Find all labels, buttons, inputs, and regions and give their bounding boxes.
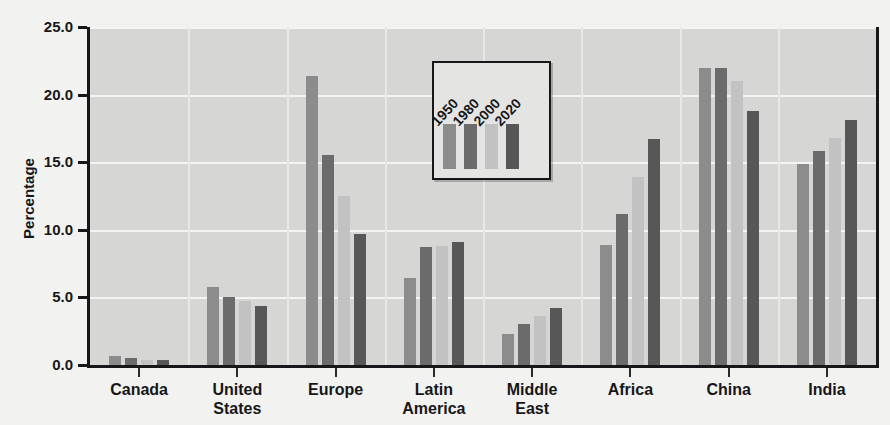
legend-swatch-2000 — [485, 124, 498, 169]
bar-chart: Percentage 0.05.010.015.020.025.0 Canada… — [0, 0, 890, 425]
bar — [648, 139, 660, 365]
bar — [125, 358, 137, 365]
bar — [436, 246, 448, 365]
bar-group — [680, 27, 778, 365]
x-axis-tick-label: Africa — [581, 380, 679, 399]
bar — [600, 245, 612, 365]
bar — [731, 81, 743, 365]
bar — [845, 120, 857, 365]
bar-group — [90, 27, 188, 365]
bar-group — [188, 27, 286, 365]
y-axis-tick-mark — [78, 229, 87, 232]
y-axis-tick-mark — [78, 94, 87, 97]
x-axis-tick-label: Canada — [90, 380, 188, 399]
x-axis-tick: UnitedStates — [188, 368, 286, 423]
bar — [797, 164, 809, 365]
x-axis-tick-label-line2: America — [385, 399, 483, 418]
bar — [616, 214, 628, 365]
legend-swatch-1980 — [464, 124, 477, 169]
bar — [699, 68, 711, 365]
bar-group — [778, 27, 876, 365]
bar — [404, 278, 416, 365]
x-axis-tick-mark — [236, 368, 238, 377]
y-axis-tick-label: 15.0 — [0, 153, 73, 170]
bar — [829, 138, 841, 365]
bar — [338, 196, 350, 365]
legend-labels: 1950198020002020 — [434, 63, 549, 125]
bar — [354, 234, 366, 365]
bar — [715, 68, 727, 365]
x-axis-tick-mark — [826, 368, 828, 377]
bar — [813, 151, 825, 365]
y-axis-tick-mark — [78, 161, 87, 164]
legend-swatches — [443, 124, 527, 169]
y-axis-tick-mark — [78, 296, 87, 299]
x-axis-tick-label: LatinAmerica — [385, 380, 483, 418]
x-axis-tick-label: MiddleEast — [483, 380, 581, 418]
x-axis-tick-labels: CanadaUnitedStatesEuropeLatinAmericaMidd… — [90, 368, 876, 423]
bar — [157, 360, 169, 365]
bar — [223, 297, 235, 365]
x-axis-tick-mark — [138, 368, 140, 377]
x-axis-tick: MiddleEast — [483, 368, 581, 423]
x-axis-tick-label-line2: States — [188, 399, 286, 418]
y-axis-tick-label: 20.0 — [0, 86, 73, 103]
y-axis-tick-label: 5.0 — [0, 288, 73, 305]
legend: 1950198020002020 — [432, 61, 551, 180]
bar — [306, 76, 318, 365]
x-axis-tick: LatinAmerica — [385, 368, 483, 423]
x-axis-tick: China — [680, 368, 778, 423]
y-axis-tick-label: 25.0 — [0, 18, 73, 35]
x-axis-tick-label: India — [778, 380, 876, 399]
x-axis-tick-label: China — [680, 380, 778, 399]
x-axis-tick-mark — [728, 368, 730, 377]
bar — [255, 306, 267, 365]
bar — [322, 155, 334, 365]
bar — [452, 242, 464, 365]
x-axis-tick: India — [778, 368, 876, 423]
bar — [141, 360, 153, 365]
x-axis-tick: Canada — [90, 368, 188, 423]
bar — [109, 356, 121, 365]
bar — [239, 301, 251, 365]
x-axis-tick: Africa — [581, 368, 679, 423]
x-axis-tick-label-line2: East — [483, 399, 581, 418]
bar — [502, 334, 514, 365]
x-axis-tick-label: UnitedStates — [188, 380, 286, 418]
x-axis-tick-mark — [629, 368, 631, 377]
y-axis-tick-mark — [78, 26, 87, 29]
bar — [420, 247, 432, 365]
legend-swatch-2020 — [506, 124, 519, 169]
x-axis-tick: Europe — [287, 368, 385, 423]
bar — [518, 324, 530, 365]
y-axis-tick-mark — [78, 364, 87, 367]
bar — [632, 177, 644, 365]
x-axis-tick-mark — [433, 368, 435, 377]
y-axis-tick-label: 0.0 — [0, 356, 73, 373]
bar-group — [287, 27, 385, 365]
x-axis-tick-mark — [335, 368, 337, 377]
x-axis-tick-mark — [531, 368, 533, 377]
x-axis-tick-label: Europe — [287, 380, 385, 399]
y-axis-title: Percentage — [20, 119, 37, 279]
bar — [550, 308, 562, 365]
bar — [747, 111, 759, 365]
y-axis-tick-label: 10.0 — [0, 221, 73, 238]
bar — [534, 316, 546, 365]
legend-swatch-1950 — [443, 124, 456, 169]
bar — [207, 287, 219, 365]
bar-group — [581, 27, 679, 365]
